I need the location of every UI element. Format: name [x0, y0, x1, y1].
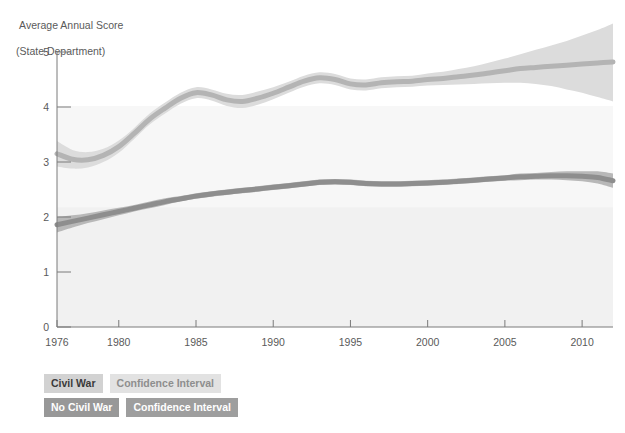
- legend-chip-no-civil-war-confidence-interval[interactable]: Confidence Interval: [126, 398, 237, 417]
- y-axis-tick-label: 1: [43, 266, 49, 278]
- y-axis-tick-label: 3: [43, 156, 49, 168]
- x-axis-tick-label: 1980: [107, 336, 131, 348]
- background-tint-upper: [57, 106, 613, 207]
- y-axis-tick-label: 2: [43, 211, 49, 223]
- x-axis-tick-label: 1985: [184, 336, 208, 348]
- y-axis-tick-label: 4: [43, 101, 49, 113]
- legend-chip-civil-war[interactable]: Civil War: [44, 374, 103, 393]
- x-axis-tick-label: 1990: [262, 336, 286, 348]
- x-axis-tick-label: 2000: [416, 336, 440, 348]
- x-axis-tick-label: 2010: [570, 336, 594, 348]
- legend-chip-civil-war-confidence-interval[interactable]: Confidence Interval: [110, 374, 221, 393]
- background-tint-lower: [57, 207, 613, 327]
- plot-area: 012345 19761980198519901995200020052010: [0, 0, 625, 433]
- legend-chip-no-civil-war[interactable]: No Civil War: [44, 398, 119, 417]
- y-axis-tick-label: 0: [43, 321, 49, 333]
- y-axis-tick-labels: 012345: [43, 46, 49, 333]
- x-axis-tick-label: 2005: [493, 336, 517, 348]
- x-axis-tick-label: 1995: [339, 336, 363, 348]
- x-axis-tick-label: 1976: [45, 336, 69, 348]
- chart-legend: Civil War Confidence Interval No Civil W…: [44, 374, 245, 422]
- x-axis-tick-labels: 19761980198519901995200020052010: [45, 336, 594, 348]
- legend-row-no-civil-war: No Civil War Confidence Interval: [44, 398, 245, 417]
- chart-container: Average Annual Score (State Department) …: [0, 0, 625, 433]
- background-tints: [57, 106, 613, 327]
- y-axis-tick-label: 5: [43, 46, 49, 58]
- legend-row-civil-war: Civil War Confidence Interval: [44, 374, 245, 393]
